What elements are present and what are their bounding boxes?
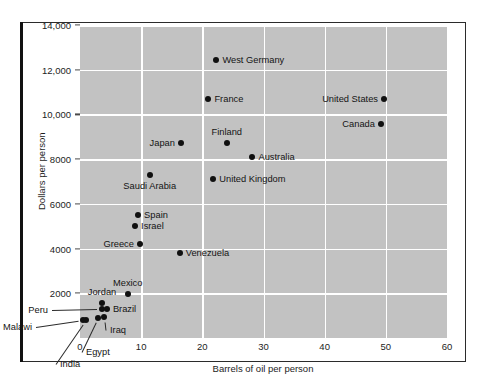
data-point-canada[interactable]: [378, 121, 384, 127]
point-label-canada: Canada: [342, 119, 375, 129]
point-label-jordan: Jordan: [88, 287, 116, 297]
data-point-israel[interactable]: [132, 223, 138, 229]
gridline-horizontal-12000: [80, 70, 447, 72]
data-point-iraq[interactable]: [101, 314, 107, 320]
y-tick-mark-14000: [75, 24, 80, 25]
gridline-horizontal-4000: [80, 249, 447, 251]
point-label-united-kingdom: United Kingdom: [219, 174, 285, 184]
x-tick-label-60: 60: [442, 341, 453, 352]
point-label-finland: Finland: [212, 127, 243, 137]
y-axis-label: Dollars per person: [36, 132, 47, 210]
data-point-saudi-arabia[interactable]: [147, 172, 153, 178]
data-point-egypt[interactable]: [95, 315, 101, 321]
gridline-vertical-40: [325, 25, 327, 338]
x-tick-label-20: 20: [197, 341, 208, 352]
point-label-india: India: [60, 359, 80, 369]
scatter-chart-figure: 200040006000800010,00012,00014,000 01020…: [0, 0, 478, 388]
x-tick-label-50: 50: [381, 341, 392, 352]
y-tick-mark-8000: [75, 159, 80, 160]
gridline-horizontal-6000: [80, 204, 447, 206]
data-point-west-germany[interactable]: [213, 57, 219, 63]
y-tick-mark-12000: [75, 69, 80, 70]
point-label-saudi-arabia: Saudi Arabia: [123, 181, 176, 191]
x-tick-label-40: 40: [319, 341, 330, 352]
data-point-finland[interactable]: [224, 140, 230, 146]
data-point-greece[interactable]: [137, 241, 143, 247]
point-label-iraq: Iraq: [110, 325, 126, 335]
data-point-france[interactable]: [205, 96, 211, 102]
point-label-malawi: Malawi: [3, 322, 32, 332]
gridline-horizontal-10000: [80, 114, 447, 116]
x-tick-label-10: 10: [136, 341, 147, 352]
y-tick-mark-2000: [75, 293, 80, 294]
data-point-australia[interactable]: [249, 154, 255, 160]
point-label-west-germany: West Germany: [222, 55, 284, 65]
point-label-greece: Greece: [103, 239, 134, 249]
data-point-united-states[interactable]: [381, 96, 387, 102]
y-tick-label-10000: 10,000: [0, 109, 71, 120]
gridline-vertical-20: [202, 25, 204, 338]
data-point-spain[interactable]: [135, 212, 141, 218]
gridline-vertical-50: [386, 25, 388, 338]
y-tick-label-14000: 14,000: [0, 20, 71, 31]
point-label-spain: Spain: [144, 210, 168, 220]
point-label-israel: Israel: [141, 221, 164, 231]
data-point-peru[interactable]: [99, 306, 105, 312]
x-axis-label: Barrels of oil per person: [213, 363, 314, 374]
point-label-united-states: United States: [322, 94, 378, 104]
data-point-mexico[interactable]: [125, 291, 131, 297]
point-label-egypt: Egypt: [86, 347, 110, 357]
data-point-united-kingdom[interactable]: [210, 176, 216, 182]
point-label-mexico: Mexico: [113, 278, 142, 288]
y-tick-mark-4000: [75, 248, 80, 249]
point-label-peru: Peru: [28, 305, 48, 315]
x-tick-label-30: 30: [258, 341, 269, 352]
point-label-venezuela: Venezuela: [186, 248, 229, 258]
data-point-malawi[interactable]: [80, 317, 86, 323]
point-label-australia: Australia: [258, 152, 294, 162]
y-tick-mark-10000: [75, 114, 80, 115]
y-tick-label-2000: 2000: [0, 288, 71, 299]
data-point-venezuela[interactable]: [177, 250, 183, 256]
point-label-japan: Japan: [150, 138, 175, 148]
y-tick-mark-6000: [75, 203, 80, 204]
point-label-brazil: Brazil: [113, 304, 136, 314]
gridline-horizontal-14000: [80, 25, 447, 27]
y-tick-label-12000: 12,000: [0, 64, 71, 75]
point-label-france: France: [214, 94, 243, 104]
data-point-japan[interactable]: [178, 140, 184, 146]
gridline-horizontal-2000: [80, 293, 447, 295]
y-tick-label-4000: 4000: [0, 243, 71, 254]
